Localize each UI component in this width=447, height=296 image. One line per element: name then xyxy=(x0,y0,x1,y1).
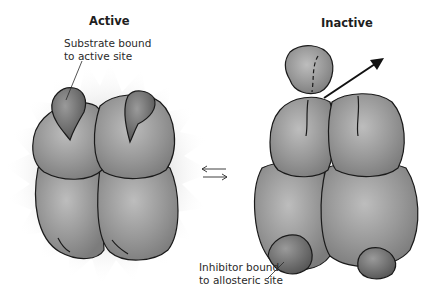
inhibitor-annotation: Inhibitor bound to allosteric site xyxy=(199,261,283,287)
inactive-enzyme xyxy=(255,94,418,279)
substrate-annotation-line-2: to active site xyxy=(64,50,151,63)
inhibitor-annotation-line-1: Inhibitor bound xyxy=(199,261,283,274)
inactive-upper-right-subunit xyxy=(329,94,405,177)
active-state-title: Active xyxy=(89,14,129,28)
inhibitor-right xyxy=(358,248,396,279)
substrate-annotation: Substrate bound to active site xyxy=(64,37,151,63)
inactive-state-title: Inactive xyxy=(321,16,373,30)
substrate-annotation-line-1: Substrate bound xyxy=(64,37,151,50)
inactive-upper-left-subunit xyxy=(270,97,334,176)
active-enzyme xyxy=(33,88,178,260)
inhibitor-annotation-line-2: to allosteric site xyxy=(199,274,283,287)
released-substrate xyxy=(286,46,333,94)
